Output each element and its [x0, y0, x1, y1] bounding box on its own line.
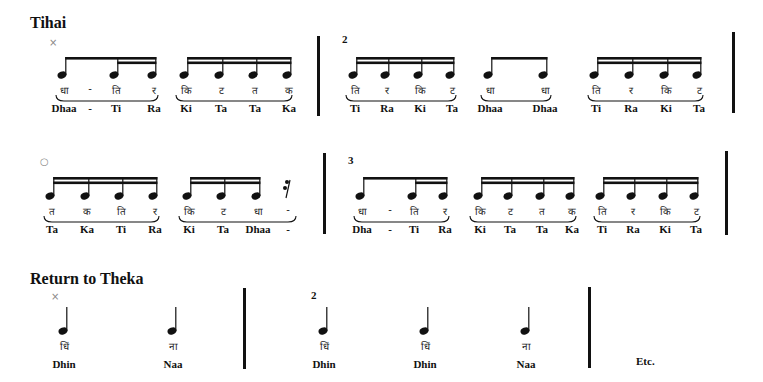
devanagari-syllable: त [252, 83, 258, 97]
sixteenth-rest [285, 180, 289, 184]
roman-syllable: Ta [215, 102, 227, 114]
devanagari-syllable: धिं [421, 339, 430, 353]
devanagari-syllable: ना [522, 339, 531, 353]
roman-syllable: Ra [624, 102, 637, 114]
roman-syllable: Ta [249, 102, 261, 114]
devanagari-syllable: धा [358, 204, 367, 218]
devanagari-syllable: धा [486, 83, 495, 97]
roman-syllable: Ta [46, 223, 58, 235]
roman-syllable: Dhaa [477, 102, 502, 114]
roman-syllable: Ka [282, 102, 296, 114]
devanagari-syllable: धा [254, 204, 263, 218]
devanagari-syllable: ट [219, 83, 224, 97]
devanagari-syllable: कि [660, 204, 671, 218]
devanagari-syllable: ति [351, 83, 360, 97]
devanagari-syllable: - [88, 83, 92, 94]
devanagari-syllable: र [443, 204, 447, 218]
roman-syllable: Dhaa [532, 102, 557, 114]
roman-syllable: Ta [693, 102, 705, 114]
devanagari-syllable: धा [541, 83, 550, 97]
devanagari-syllable: ति [117, 204, 126, 218]
notation-staff [0, 0, 763, 382]
roman-syllable: Ki [183, 223, 195, 235]
devanagari-syllable: क [285, 83, 293, 97]
devanagari-syllable: कि [415, 83, 426, 97]
devanagari-syllable: र [153, 204, 157, 218]
roman-syllable: Ra [438, 223, 451, 235]
devanagari-syllable: र [152, 83, 156, 97]
roman-syllable: Ti [111, 102, 121, 114]
roman-syllable: Ra [148, 223, 161, 235]
devanagari-syllable: ति [598, 204, 607, 218]
roman-syllable: Ti [116, 223, 126, 235]
devanagari-syllable: कि [661, 83, 672, 97]
devanagari-syllable: त [539, 204, 545, 218]
roman-syllable: - [388, 223, 392, 235]
roman-syllable: Ra [626, 223, 639, 235]
devanagari-syllable: र [385, 83, 389, 97]
devanagari-syllable: धा [60, 83, 69, 97]
roman-syllable: Ti [409, 223, 419, 235]
roman-syllable: Ka [565, 223, 579, 235]
roman-syllable: Ti [350, 102, 360, 114]
devanagari-syllable: ना [169, 339, 178, 353]
roman-syllable: Ra [147, 102, 160, 114]
devanagari-syllable: ति [112, 83, 121, 97]
roman-syllable: Ta [217, 223, 229, 235]
devanagari-syllable: ट [450, 83, 455, 97]
roman-syllable: - [88, 102, 92, 114]
roman-syllable: Ki [414, 102, 426, 114]
devanagari-syllable: - [388, 204, 392, 215]
devanagari-syllable: ट [221, 204, 226, 218]
roman-syllable: Ta [536, 223, 548, 235]
devanagari-syllable: क [568, 204, 576, 218]
roman-syllable: Dha [352, 223, 372, 235]
roman-syllable: Ra [380, 102, 393, 114]
roman-syllable: Ka [80, 223, 94, 235]
roman-syllable: Dhin [312, 358, 335, 370]
devanagari-syllable: धिं [320, 339, 329, 353]
roman-syllable: Naa [517, 358, 536, 370]
devanagari-syllable: कि [184, 204, 195, 218]
roman-syllable: Ti [597, 223, 607, 235]
devanagari-syllable: त [49, 204, 55, 218]
roman-syllable: - [286, 223, 290, 235]
roman-syllable: Dhaa [51, 102, 76, 114]
devanagari-syllable: ट [697, 83, 702, 97]
roman-syllable: Ta [446, 102, 458, 114]
roman-syllable: Ki [180, 102, 192, 114]
devanagari-syllable: र [631, 204, 635, 218]
devanagari-syllable: - [286, 204, 290, 215]
roman-syllable: Ki [659, 223, 671, 235]
devanagari-syllable: ट [508, 204, 513, 218]
roman-syllable: Ta [690, 223, 702, 235]
roman-syllable: Ta [504, 223, 516, 235]
devanagari-syllable: ति [592, 83, 601, 97]
roman-syllable: Ki [660, 102, 672, 114]
devanagari-syllable: कि [181, 83, 192, 97]
roman-syllable: Dhin [52, 358, 75, 370]
roman-syllable: Dhaa [245, 223, 270, 235]
devanagari-syllable: क [83, 204, 91, 218]
roman-syllable: Ti [591, 102, 601, 114]
roman-syllable: Dhin [413, 358, 436, 370]
devanagari-syllable: ट [694, 204, 699, 218]
devanagari-syllable: ति [410, 204, 419, 218]
devanagari-syllable: धिं [60, 339, 69, 353]
roman-syllable: Ki [474, 223, 486, 235]
devanagari-syllable: र [629, 83, 633, 97]
devanagari-syllable: कि [475, 204, 486, 218]
roman-syllable: Naa [164, 358, 183, 370]
